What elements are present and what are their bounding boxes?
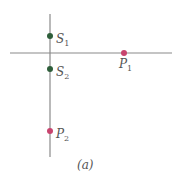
point-p2-dot bbox=[47, 128, 53, 134]
point-s2-dot bbox=[47, 66, 53, 72]
label-s2: S2 bbox=[56, 65, 69, 81]
label-p1: P1 bbox=[118, 57, 132, 73]
diagram-canvas: S1 S2 P1 P2 (a) bbox=[0, 0, 177, 187]
label-s1: S1 bbox=[56, 32, 69, 48]
point-s1-dot bbox=[47, 33, 53, 39]
label-p2: P2 bbox=[55, 127, 69, 143]
point-p1-dot bbox=[121, 50, 127, 56]
figure-caption: (a) bbox=[77, 158, 94, 172]
